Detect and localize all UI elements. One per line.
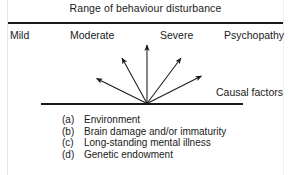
causal-arrow-1 [97, 79, 148, 104]
legend-item: (c) Long-standing mental illness [62, 137, 282, 149]
causal-arrow-4 [147, 58, 181, 104]
legend-item-marker: (b) [62, 126, 84, 138]
legend-item-label: Genetic endowment [84, 149, 282, 161]
causal-factors-legend: (a) Environment (b) Brain damage and/or … [62, 114, 282, 160]
legend-item-label: Environment [84, 114, 282, 126]
causal-factors-label: Causal factors [216, 86, 283, 99]
legend-item: (b) Brain damage and/or immaturity [62, 126, 282, 138]
legend-item-label: Brain damage and/or immaturity [84, 126, 282, 138]
legend-item-label: Long-standing mental illness [84, 137, 282, 149]
causal-arrow-2 [122, 58, 147, 104]
causal-arrow-5 [147, 76, 202, 104]
legend-item-marker: (a) [62, 114, 84, 126]
legend-item: (a) Environment [62, 114, 282, 126]
legend-item: (d) Genetic endowment [62, 149, 282, 161]
legend-item-marker: (d) [62, 149, 84, 161]
legend-item-marker: (c) [62, 137, 84, 149]
behaviour-disturbance-figure: Range of behaviour disturbance Mild Mode… [0, 0, 291, 175]
causal-factors-baseline [41, 103, 243, 105]
